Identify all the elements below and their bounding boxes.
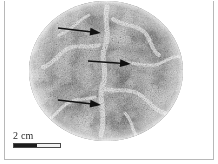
scale-bar-label: 2 cm xyxy=(13,130,73,141)
figure-panel: 2 cm xyxy=(0,0,218,164)
scale-bar-fill xyxy=(14,144,37,147)
specimen-texture xyxy=(29,1,183,141)
scale-bar: 2 cm xyxy=(13,130,73,148)
specimen-image xyxy=(29,1,183,141)
scale-bar-graphic xyxy=(13,143,61,148)
specimen-disc xyxy=(29,1,183,141)
